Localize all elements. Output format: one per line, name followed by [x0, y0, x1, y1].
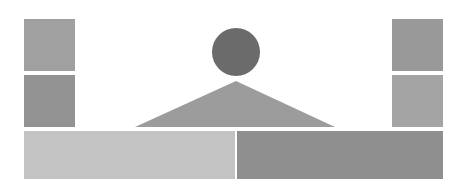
- center-circle: [212, 28, 260, 76]
- bottom-left-bar: [24, 131, 235, 179]
- center-triangle: [135, 81, 335, 127]
- left-top-square: [24, 19, 75, 71]
- right-top-square: [392, 19, 443, 71]
- right-bottom-square: [392, 75, 443, 127]
- bottom-right-bar: [237, 131, 443, 179]
- left-bottom-square: [24, 75, 75, 127]
- diagram-canvas: [0, 0, 467, 188]
